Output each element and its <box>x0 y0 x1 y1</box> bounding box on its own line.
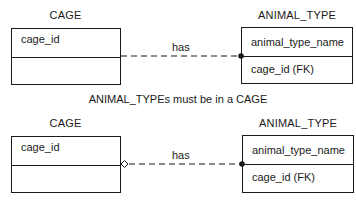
hollow-diamond-icon <box>121 161 128 168</box>
filled-dot-icon <box>239 161 245 167</box>
relationship-connectors <box>0 0 356 201</box>
filled-dot-icon <box>238 53 244 59</box>
